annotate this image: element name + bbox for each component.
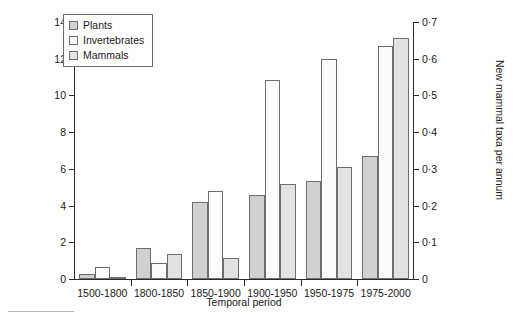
bar bbox=[110, 277, 126, 279]
bar bbox=[337, 167, 353, 279]
y-axis-right-tick bbox=[414, 59, 419, 60]
y-axis-left-tick bbox=[69, 169, 74, 170]
bar bbox=[167, 254, 183, 279]
x-axis-category-label: 1500-1800 bbox=[77, 288, 127, 299]
x-axis-category-label: 1800-1850 bbox=[134, 288, 184, 299]
y-axis-right-title: New mammal taxa per annum bbox=[494, 60, 506, 200]
x-axis-category-label: 1900-1950 bbox=[247, 288, 297, 299]
bar bbox=[362, 156, 378, 279]
y-axis-left-tick bbox=[69, 206, 74, 207]
y-axis-right-tick bbox=[414, 242, 419, 243]
bar bbox=[192, 202, 208, 279]
y-axis-left-tick-label: 2 bbox=[48, 237, 66, 248]
x-axis-tick bbox=[244, 280, 245, 286]
y-axis-left-tick-label: 6 bbox=[48, 164, 66, 175]
bar bbox=[95, 267, 111, 279]
y-axis-right-tick bbox=[414, 169, 419, 170]
legend-swatch-icon bbox=[69, 36, 78, 45]
bar bbox=[321, 59, 337, 279]
footer-rule bbox=[8, 311, 74, 312]
y-axis-right-tick-label: 0·5 bbox=[422, 90, 437, 101]
bar bbox=[223, 258, 239, 279]
bar bbox=[208, 191, 224, 279]
legend-item-label: Invertebrates bbox=[83, 35, 144, 46]
legend-item-label: Plants bbox=[83, 20, 112, 31]
y-axis-right-tick-label: 0·7 bbox=[422, 17, 437, 28]
bar bbox=[306, 181, 322, 279]
y-axis-left-tick bbox=[69, 242, 74, 243]
bar bbox=[280, 184, 296, 279]
y-axis-right-tick-label: 0·6 bbox=[422, 54, 437, 65]
bar bbox=[393, 38, 409, 279]
y-axis-left-tick bbox=[69, 279, 74, 280]
legend-swatch-icon bbox=[69, 51, 78, 60]
y-axis-right-tick-label: 0 bbox=[422, 274, 428, 285]
x-axis-tick bbox=[301, 280, 302, 286]
legend-item: Mammals bbox=[69, 48, 144, 63]
bar-chart: New plant & invertebrate taxa per annum … bbox=[0, 0, 524, 322]
y-axis-right-tick-label: 0·3 bbox=[422, 164, 437, 175]
y-axis-right-tick bbox=[414, 22, 419, 23]
bar bbox=[151, 263, 167, 279]
y-axis-left-tick-label: 0 bbox=[48, 274, 66, 285]
x-axis-category-label: 1950-1975 bbox=[304, 288, 354, 299]
bar bbox=[378, 46, 394, 279]
x-axis-tick bbox=[131, 280, 132, 286]
y-axis-right-tick bbox=[414, 132, 419, 133]
y-axis-right-tick-label: 0·2 bbox=[422, 201, 437, 212]
bar bbox=[249, 195, 265, 279]
y-axis-right-tick-label: 0·4 bbox=[422, 127, 437, 138]
x-axis-category-label: 1975-2000 bbox=[361, 288, 411, 299]
legend-item: Invertebrates bbox=[69, 33, 144, 48]
y-axis-right-tick bbox=[414, 95, 419, 96]
legend-item-label: Mammals bbox=[83, 50, 129, 61]
legend-item: Plants bbox=[69, 18, 144, 33]
y-axis-left-tick bbox=[69, 132, 74, 133]
y-axis-right-tick bbox=[414, 206, 419, 207]
chart-legend: PlantsInvertebratesMammals bbox=[63, 14, 153, 67]
x-axis-category-label: 1850-1900 bbox=[191, 288, 241, 299]
bar bbox=[265, 80, 281, 279]
x-axis-tick bbox=[187, 280, 188, 286]
y-axis-left-tick-label: 10 bbox=[48, 90, 66, 101]
bar bbox=[79, 274, 95, 280]
x-axis-tick bbox=[357, 280, 358, 286]
legend-swatch-icon bbox=[69, 21, 78, 30]
y-axis-left-tick-label: 4 bbox=[48, 201, 66, 212]
y-axis-right-tick-label: 0·1 bbox=[422, 237, 437, 248]
y-axis-left-tick-label: 8 bbox=[48, 127, 66, 138]
y-axis-left-tick bbox=[69, 95, 74, 96]
bar bbox=[136, 248, 152, 279]
y-axis-right-tick bbox=[414, 279, 419, 280]
